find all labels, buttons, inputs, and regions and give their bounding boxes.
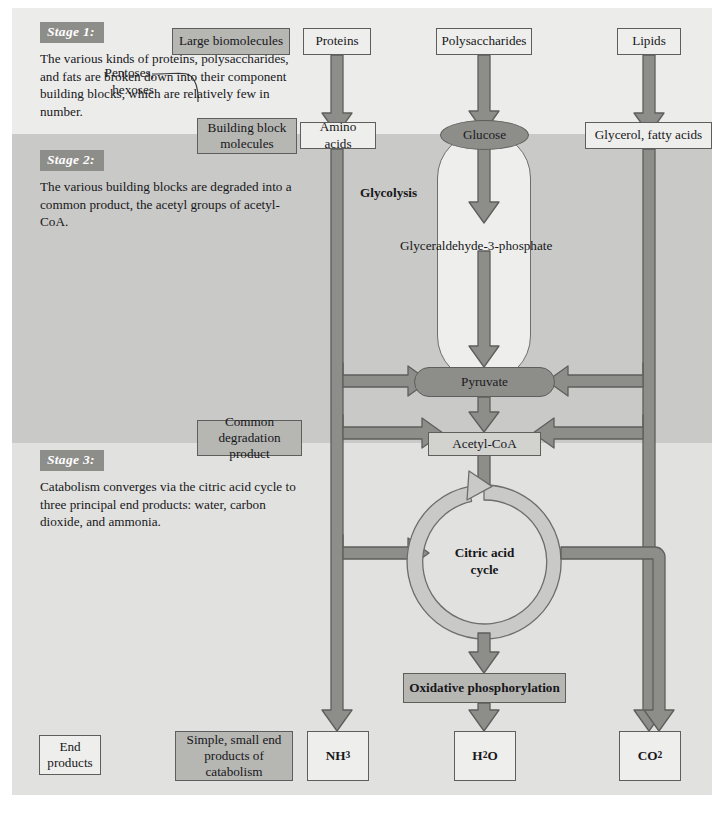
water-formula: H	[472, 748, 482, 764]
ammonia-formula: NH	[326, 748, 346, 764]
catabolism-stages-figure: .fl { fill:#8d8d8a; stroke:#5e5e5c; stro…	[0, 0, 725, 816]
pentoses-line-1: Pentoses,	[105, 65, 154, 80]
figure-panel: .fl { fill:#8d8d8a; stroke:#5e5e5c; stro…	[12, 8, 712, 795]
node-glucose: Glucose	[440, 120, 529, 150]
node-oxidative-phosphorylation: Oxidative phosphorylation	[403, 673, 566, 703]
node-proteins: Proteins	[303, 28, 371, 55]
node-amino-acids: Amino acids	[300, 122, 376, 149]
annotation-glycolysis: Glycolysis	[360, 184, 417, 201]
pentoses-line-2: hexoses	[112, 82, 154, 97]
label-citric-acid-cycle: Citric acid cycle	[442, 544, 527, 578]
carbon-dioxide-formula: CO	[638, 748, 658, 764]
node-pyruvate: Pyruvate	[414, 367, 555, 397]
annotation-pentoses-hexoses: Pentoses, hexoses	[62, 64, 154, 98]
ammonia-subscript: 3	[346, 750, 351, 762]
node-polysaccharides: Polysaccharides	[436, 28, 532, 55]
node-glycerol-fatty-acids: Glycerol, fatty acids	[585, 122, 712, 149]
citric-acid-cycle-line-2: cycle	[471, 562, 499, 577]
node-lipids: Lipids	[617, 28, 681, 55]
carbon-dioxide-subscript: 2	[658, 750, 663, 762]
water-suffix: O	[487, 748, 497, 764]
node-carbon-dioxide: CO2	[619, 731, 681, 781]
node-acetyl-coa: Acetyl-CoA	[428, 432, 541, 456]
citric-acid-cycle-line-1: Citric acid	[455, 545, 515, 560]
node-water: H2O	[454, 731, 516, 781]
node-ammonia: NH3	[307, 731, 369, 781]
annotation-glyceraldehyde-3-phosphate: Glyceraldehyde-3-phosphate	[400, 237, 552, 254]
